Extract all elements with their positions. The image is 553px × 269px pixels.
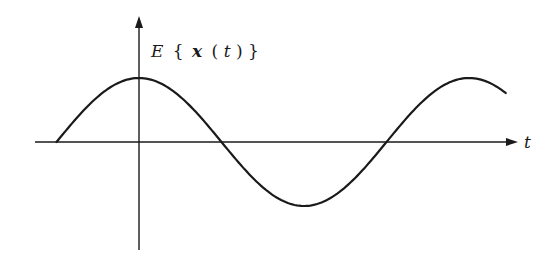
y-axis-label: E { x ( t ) }: [150, 41, 259, 61]
t-axis-label: t: [524, 132, 531, 152]
y-axis-arrow-icon: [135, 16, 143, 28]
diagram-canvas: E { x ( t ) } t: [0, 0, 553, 269]
t-axis-arrow-icon: [506, 138, 518, 146]
